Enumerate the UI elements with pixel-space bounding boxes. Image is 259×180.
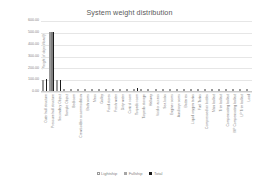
bar-group [55,21,62,91]
bar-total [53,32,55,91]
chart-container: System weight distribution Weight of obj… [0,0,259,180]
bar-group [182,21,189,91]
x-axis-tick-label: Load [248,94,252,102]
legend-item-total[interactable]: Total [149,171,162,176]
x-axis-label-slot: Dirty water [118,94,125,156]
x-axis-label-slot: Auxiliary rooms [175,94,182,156]
legend-label: Total [154,171,162,176]
x-axis-label-slot: Pressure hull structure [48,94,55,156]
x-axis-label-slot: Bedroom [69,94,76,156]
bar-group [48,21,55,91]
bar-group [231,21,238,91]
bar-group [168,21,175,91]
y-axis-tick-label: 100.00 [17,78,39,82]
x-axis-label-slot: Torpedo storage [139,94,146,156]
x-axis-label-slot: LP Trim ballast [238,94,245,156]
bar-lightship [56,80,58,91]
legend-label: Lightship [101,171,117,176]
bar-group [62,21,69,91]
bar-total [46,79,48,91]
x-axis-tick-labels: Outer hull structurePressure hull struct… [41,94,252,156]
legend-swatch-lightship [97,172,100,175]
bar-group [154,21,161,91]
x-axis-label-slot: Fuel Tanks [196,94,203,156]
x-axis-label-slot: Food stores [104,94,111,156]
x-axis-label-slot: Galley [97,94,104,156]
y-axis-tick-labels: 600.00500.00400.00300.00200.00100.000.00 [17,21,39,92]
x-axis-label-slot: Liquid oxygen tanks [189,94,196,156]
y-axis-tick-label: 0.00 [17,90,39,94]
x-axis-label-slot: Fresh water [111,94,118,156]
legend-label: Fullship [129,171,143,176]
bar-group [161,21,168,91]
x-axis-label-slot: Void or access [154,94,161,156]
x-axis-line [41,91,252,92]
bar-group [217,21,224,91]
y-axis-tick-label: 300.00 [17,55,39,59]
y-axis-tick-label: 600.00 [17,19,39,23]
bar-group [76,21,83,91]
legend-swatch-total [149,172,152,175]
x-axis-label-slot: Compressed air bottles [203,94,210,156]
legend-swatch-fullship [124,172,127,175]
bar-group [139,21,146,91]
legend-item-fullship[interactable]: Fullship [124,171,142,176]
x-axis-label-slot: Batteries [182,94,189,156]
bar-group [125,21,132,91]
bar-group [175,21,182,91]
bar-lightship [42,80,44,91]
bar-group [118,21,125,91]
plot-area: Weight of object/load [t] 600.00500.0040… [41,21,252,92]
bar-group [69,21,76,91]
bar-group [210,21,217,91]
bar-group [132,21,139,91]
x-axis-label-slot: Torpedo room [132,94,139,156]
x-axis-label-slot: Crew/soldier accommodation [76,94,83,156]
chart-legend: LightshipFullshipTotal [0,171,259,176]
chart-title: System weight distribution [0,8,259,17]
x-axis-label-slot: Compensating ballast [224,94,231,156]
bar-group [224,21,231,91]
bar-group [90,21,97,91]
bar-group [111,21,118,91]
bar-group [189,21,196,91]
y-axis-tick-label: 400.00 [17,43,39,47]
x-axis-label-slot: Main ballast [210,94,217,156]
x-axis-label-slot: MP Compensating ballast [231,94,238,156]
x-axis-label-slot: Engine rooms [168,94,175,156]
x-axis-label-slot: Mess [90,94,97,156]
bar-group [146,21,153,91]
bar-total [60,80,62,91]
y-axis-tick-label: 200.00 [17,67,39,71]
x-axis-label-slot: Load [245,94,252,156]
bar-group [203,21,210,91]
x-axis-label-slot: Secondary Object [55,94,62,156]
x-axis-label-slot: Control room [125,94,132,156]
x-axis-label-slot: Trim ballast [217,94,224,156]
bar-group [196,21,203,91]
x-axis-label-slot: Sample Object [62,94,69,156]
bar-group [238,21,245,91]
legend-item-lightship[interactable]: Lightship [97,171,118,176]
x-axis-label-slot: Outer hull structure [41,94,48,156]
x-axis-label-slot: Hallway [146,94,153,156]
bar-group [41,21,48,91]
y-axis-tick-label: 500.00 [17,31,39,35]
bar-group [83,21,90,91]
x-axis-label-slot: Sea locks [161,94,168,156]
bar-groups [41,21,252,91]
x-axis-label-slot: Bathrooms [83,94,90,156]
bar-group [104,21,111,91]
bar-group [97,21,104,91]
bar-group [245,21,252,91]
